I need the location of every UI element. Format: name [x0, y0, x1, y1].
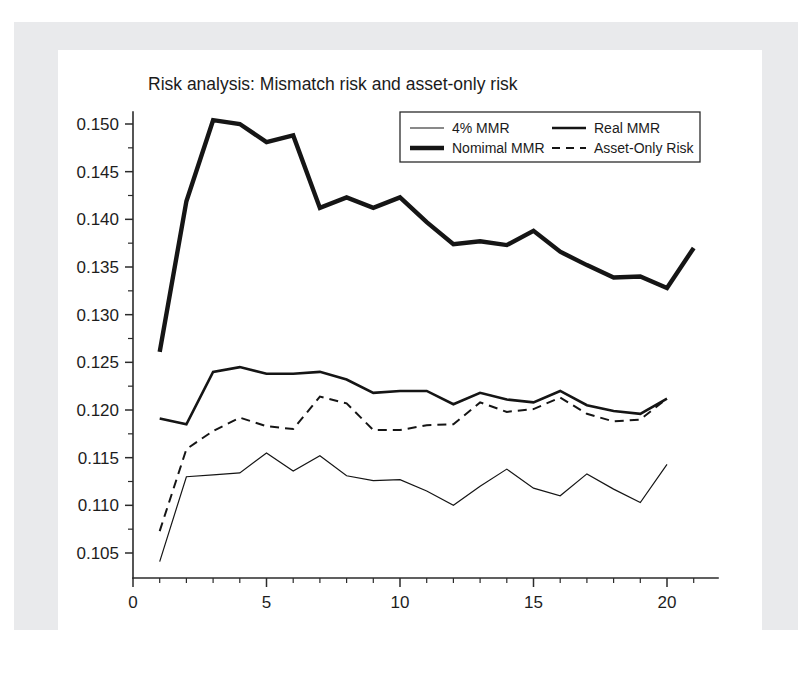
y-tick-label: 0.130 — [76, 306, 119, 325]
x-tick-label: 0 — [128, 593, 137, 612]
chart-legend: 4% MMRReal MMRNomimal MMRAsset-Only Risk — [400, 112, 700, 162]
y-tick-label: 0.145 — [76, 163, 119, 182]
axes-group — [133, 112, 718, 578]
y-tick-label: 0.110 — [78, 496, 119, 515]
y-tick-label: 0.125 — [76, 353, 119, 372]
y-tick-label: 0.115 — [78, 449, 119, 468]
y-tick-label: 0.140 — [76, 210, 119, 229]
x-axis-tick-labels: 05101520 — [128, 593, 676, 612]
x-tick-label: 10 — [391, 593, 410, 612]
legend-label: Real MMR — [594, 120, 660, 136]
x-axis-ticks — [133, 578, 694, 587]
legend-label: Asset-Only Risk — [594, 140, 695, 156]
y-axis-ticks — [125, 124, 133, 553]
y-tick-label: 0.120 — [76, 401, 119, 420]
x-tick-label: 15 — [524, 593, 543, 612]
legend-label: Nomimal MMR — [452, 140, 545, 156]
y-tick-label: 0.135 — [76, 258, 119, 277]
series-line-asset-only-risk — [160, 397, 667, 531]
series-group — [160, 120, 694, 561]
x-tick-label: 5 — [262, 593, 271, 612]
chart-svg: Risk analysis: Mismatch risk and asset-o… — [0, 0, 812, 683]
x-tick-label: 20 — [658, 593, 677, 612]
legend-label: 4% MMR — [452, 120, 510, 136]
y-tick-label: 0.150 — [76, 115, 119, 134]
chart-title: Risk analysis: Mismatch risk and asset-o… — [148, 74, 518, 94]
line-chart: Risk analysis: Mismatch risk and asset-o… — [0, 0, 812, 683]
series-line-4-mmr — [160, 453, 667, 562]
y-tick-label: 0.105 — [76, 544, 119, 563]
y-axis-tick-labels: 0.1050.1100.1150.1200.1250.1300.1350.140… — [76, 115, 119, 563]
page-root: Risk analysis: Mismatch risk and asset-o… — [0, 0, 812, 683]
